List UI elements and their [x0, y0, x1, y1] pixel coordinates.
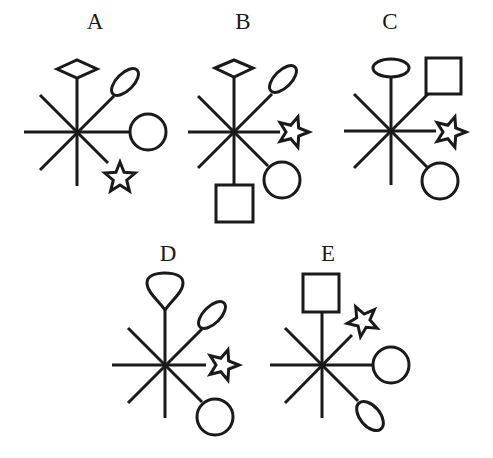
star-icon: [437, 117, 466, 147]
star-icon: [343, 299, 385, 341]
spokes: [344, 77, 436, 185]
diamond-icon: [215, 60, 253, 77]
circle-icon: [264, 162, 300, 198]
star-icon: [105, 162, 135, 191]
star-icon: [280, 117, 309, 147]
ellipse-icon: [351, 397, 388, 436]
spokes: [112, 310, 206, 418]
ellipse-icon: [373, 59, 409, 77]
square-icon: [426, 58, 461, 94]
circle-icon: [130, 114, 166, 150]
figure-d: [112, 273, 239, 435]
circle-icon: [373, 347, 409, 383]
figure-a: [24, 60, 166, 191]
circle-icon: [197, 399, 233, 435]
ellipse-icon: [265, 61, 301, 97]
square-icon: [216, 185, 253, 222]
circle-icon: [422, 163, 458, 199]
diamond-icon: [57, 60, 97, 78]
ellipse-icon: [194, 297, 230, 333]
ellipse-icon: [107, 64, 143, 100]
teardrop-icon: [147, 273, 183, 310]
figure-puzzle: A B C D E: [0, 0, 493, 458]
figure-c: [344, 58, 466, 199]
star-icon: [210, 350, 239, 380]
figure-b: [188, 60, 309, 222]
figure-e: [270, 274, 409, 435]
square-icon: [303, 274, 339, 312]
